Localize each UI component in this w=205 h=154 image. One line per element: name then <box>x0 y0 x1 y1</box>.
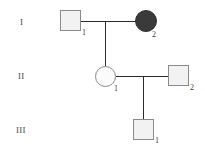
pedigree-chart: I II III 1 2 1 2 1 <box>0 0 205 154</box>
individual-symbol-II-2[interactable] <box>168 65 189 86</box>
generation-label-3: III <box>16 126 26 135</box>
descent-line-generation-1 <box>105 21 106 66</box>
individual-number-II-1: 1 <box>114 85 118 93</box>
individual-symbol-I-2[interactable] <box>135 10 157 32</box>
individual-number-I-1: 1 <box>82 29 86 37</box>
individual-symbol-II-1[interactable] <box>95 66 116 87</box>
descent-line-generation-2 <box>143 76 144 119</box>
individual-number-III-1: 1 <box>155 137 159 145</box>
individual-symbol-III-1[interactable] <box>133 119 154 140</box>
mating-line-generation-2 <box>116 76 168 77</box>
individual-number-I-2: 2 <box>152 31 156 39</box>
individual-symbol-I-1[interactable] <box>60 10 81 31</box>
generation-label-2: II <box>18 72 25 81</box>
individual-number-II-2: 2 <box>190 84 194 92</box>
mating-line-generation-1 <box>81 21 136 22</box>
generation-label-1: I <box>20 18 23 27</box>
